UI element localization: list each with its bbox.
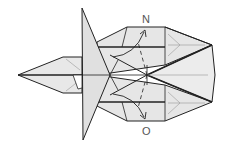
label-o: O <box>142 125 151 137</box>
left-point <box>18 57 82 93</box>
label-n: N <box>142 13 150 25</box>
origami-diagram: N O <box>0 0 229 148</box>
vertical-flap <box>82 8 118 140</box>
